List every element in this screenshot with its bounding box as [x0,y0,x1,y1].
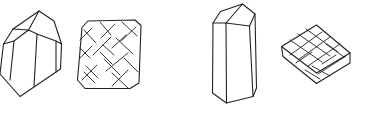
crystal-diagram [0,0,367,119]
crystal-prism-tall [213,4,257,103]
crystal-prism-short [0,11,62,97]
crystal-face-hatched-square [78,20,142,89]
crystal-tabular-hatched [282,25,351,84]
